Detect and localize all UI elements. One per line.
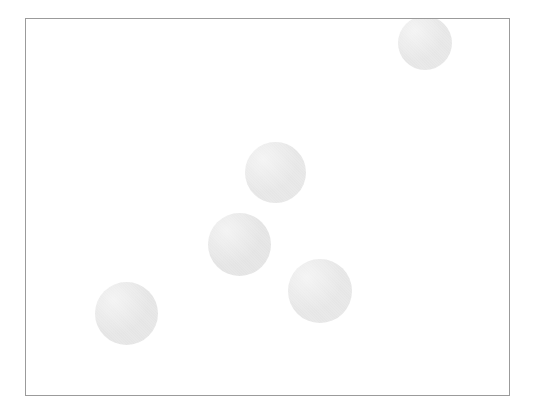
top-right-disc	[398, 18, 452, 70]
center-disc	[208, 213, 271, 276]
upper-middle-disc	[245, 142, 306, 203]
lower-left-disc	[95, 282, 158, 345]
plot-frame	[25, 18, 510, 396]
lower-right-disc	[288, 259, 352, 323]
canvas-root	[0, 0, 534, 415]
